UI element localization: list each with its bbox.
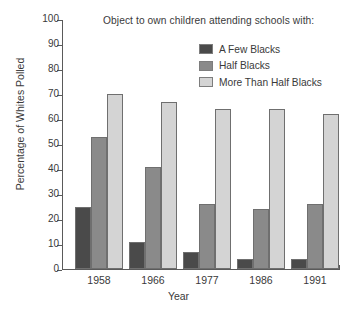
y-axis-tick-label: 0 — [53, 263, 59, 274]
y-axis-tick-label: 80 — [48, 63, 59, 74]
x-axis-tick-label: 1966 — [129, 274, 177, 286]
plot-area: 0102030405060708090100 19581966197719861… — [62, 20, 340, 270]
y-axis-tick-label: 30 — [48, 188, 59, 199]
bar — [307, 204, 323, 269]
bar — [145, 167, 161, 270]
bar — [129, 242, 145, 270]
bar-group — [291, 19, 339, 269]
x-axis-tick-label: 1977 — [183, 274, 231, 286]
bar-group — [129, 19, 177, 269]
bar — [199, 204, 215, 269]
x-axis-tick-label: 1986 — [237, 274, 285, 286]
bar — [215, 109, 231, 269]
y-axis-tick-label: 40 — [48, 163, 59, 174]
bar — [291, 259, 307, 269]
bar — [91, 137, 107, 270]
bar — [107, 94, 123, 269]
bar — [269, 109, 285, 269]
bar — [75, 207, 91, 270]
y-axis-tick-label: 100 — [42, 13, 59, 24]
y-axis-tick-label: 20 — [48, 213, 59, 224]
x-axis-line — [62, 269, 340, 270]
bar-group — [183, 19, 231, 269]
x-axis-title: Year — [0, 290, 357, 302]
y-axis-tick-label: 70 — [48, 88, 59, 99]
y-axis-tick-label: 10 — [48, 238, 59, 249]
x-axis-end-cap — [339, 265, 340, 270]
y-axis-tick-label: 50 — [48, 138, 59, 149]
bar — [161, 102, 177, 270]
x-axis-tick-label: 1958 — [75, 274, 123, 286]
bar — [237, 259, 253, 269]
y-axis-tick-label: 90 — [48, 38, 59, 49]
y-axis-title: Percentage of Whites Polled — [14, 24, 26, 224]
bar-group — [237, 19, 285, 269]
y-axis-tick-label: 60 — [48, 113, 59, 124]
x-axis-tick-label: 1991 — [291, 274, 339, 286]
bar-chart-figure: Object to own children attending schools… — [0, 0, 357, 314]
bar — [183, 252, 199, 270]
y-axis-line — [62, 20, 63, 270]
bar-group — [75, 19, 123, 269]
bar — [323, 114, 339, 269]
bar — [253, 209, 269, 269]
